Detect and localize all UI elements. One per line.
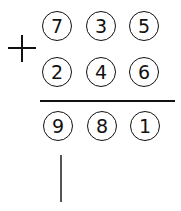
digit-circle-addend2-ones: 6 [129,57,159,87]
digit-circle-addend1-hundreds: 7 [42,11,72,41]
digit-circle-addend2-tens: 4 [86,57,116,87]
digit-circle-addend1-tens: 3 [86,11,116,41]
digit-circle-result-ones: 1 [130,111,160,141]
digit-circle-addend2-hundreds: 2 [42,57,72,87]
vertical-mark [60,155,62,202]
digit-circle-result-hundreds: 9 [43,111,73,141]
digit-circle-addend1-ones: 5 [129,11,159,41]
sum-line [40,100,175,102]
plus-sign-icon-vertical [21,35,23,62]
digit-circle-result-tens: 8 [87,111,117,141]
